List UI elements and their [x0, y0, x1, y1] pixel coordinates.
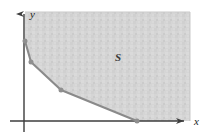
- x-axis-label: x: [194, 116, 199, 127]
- boundary-vertex-4: [135, 119, 140, 124]
- figure-shaded-region-S: y x S: [0, 0, 208, 138]
- shaded-region-S: [25, 12, 190, 121]
- figure-canvas: [0, 0, 208, 138]
- region-label-S: S: [115, 52, 121, 63]
- y-axis-label: y: [30, 9, 35, 20]
- boundary-vertex-3: [59, 88, 64, 93]
- boundary-vertex-1: [23, 39, 28, 44]
- boundary-vertex-2: [29, 60, 34, 65]
